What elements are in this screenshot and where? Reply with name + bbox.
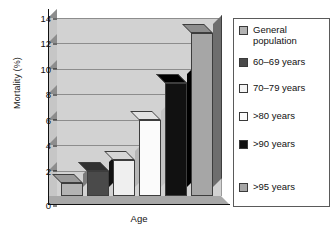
bar-side-face bbox=[213, 15, 222, 187]
legend-label: >95 years bbox=[253, 182, 295, 193]
legend-swatch bbox=[239, 84, 248, 93]
bar-70-79-years bbox=[113, 160, 135, 196]
bar-95-years bbox=[191, 33, 213, 196]
y-axis-tick-label: 6 bbox=[17, 114, 57, 125]
legend-label: 70–79 years bbox=[253, 83, 305, 94]
bar-front-face bbox=[165, 83, 187, 196]
legend-label: General population bbox=[253, 25, 297, 46]
mortality-by-age-bar-chart: Mortality (%) 02468101214 Age General po… bbox=[0, 0, 335, 242]
bar-front-face bbox=[87, 171, 109, 196]
bar-front-face bbox=[191, 33, 213, 196]
bar-front-face bbox=[113, 160, 135, 196]
x-axis-line bbox=[48, 204, 230, 205]
legend-swatch bbox=[239, 140, 248, 149]
bar-90-years bbox=[165, 83, 187, 196]
y-axis-tick-label: 4 bbox=[17, 140, 57, 151]
legend-item[interactable]: >80 years bbox=[239, 111, 295, 122]
legend-label: >90 years bbox=[253, 139, 295, 150]
legend-item[interactable]: >95 years bbox=[239, 182, 295, 193]
bar-top-face bbox=[156, 74, 187, 83]
y-axis-line bbox=[48, 9, 49, 205]
bar-general-population bbox=[61, 183, 83, 196]
chart-legend: General population60–69 years70–79 years… bbox=[233, 18, 330, 207]
bar-front-face bbox=[61, 183, 83, 196]
legend-item[interactable]: 70–79 years bbox=[239, 83, 305, 94]
legend-label: >80 years bbox=[253, 111, 295, 122]
legend-swatch bbox=[239, 26, 248, 35]
legend-item[interactable]: >90 years bbox=[239, 139, 295, 150]
bar-top-face bbox=[130, 111, 161, 120]
y-axis-tick-label: 14 bbox=[17, 13, 57, 24]
legend-item[interactable]: General population bbox=[239, 25, 297, 46]
bar-top-face bbox=[52, 174, 83, 183]
bar-60-69-years bbox=[87, 171, 109, 196]
bar-80-years bbox=[139, 120, 161, 196]
x-axis-title: Age bbox=[57, 213, 221, 224]
y-axis-tick-label: 2 bbox=[17, 165, 57, 176]
y-axis-tick-label: 10 bbox=[17, 63, 57, 74]
bar-top-face bbox=[182, 24, 213, 33]
bar-series bbox=[57, 18, 221, 196]
y-axis-tick-label: 0 bbox=[17, 200, 57, 211]
legend-item[interactable]: 60–69 years bbox=[239, 57, 305, 68]
legend-swatch bbox=[239, 58, 248, 67]
bar-top-face bbox=[104, 151, 135, 160]
bar-front-face bbox=[139, 120, 161, 196]
bar-top-face bbox=[78, 162, 109, 171]
y-axis-tick-label: 8 bbox=[17, 89, 57, 100]
legend-label: 60–69 years bbox=[253, 57, 305, 68]
legend-swatch bbox=[239, 112, 248, 121]
y-axis-tick-label: 12 bbox=[17, 38, 57, 49]
legend-swatch bbox=[239, 183, 248, 192]
plot-area: 02468101214 bbox=[57, 18, 221, 196]
